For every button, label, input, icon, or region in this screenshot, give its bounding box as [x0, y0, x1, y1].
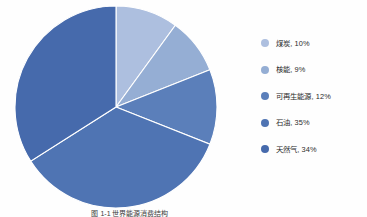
legend-swatch-icon [261, 66, 269, 74]
legend-item-label: 可再生能源, 12% [276, 93, 331, 100]
figure-caption: 图 1-1 世界能源消费结构 [0, 208, 260, 217]
legend-swatch-icon [261, 145, 269, 153]
pie-chart-figure: 煤炭, 10%核能, 9%可再生能源, 12%石油, 35%天然气, 34% 图… [0, 0, 367, 217]
pie-chart-svg [14, 5, 218, 209]
legend-item-label: 煤炭, 10% [276, 40, 310, 47]
legend-item-label: 核能, 9% [276, 66, 305, 73]
legend-item[interactable]: 天然气, 34% [261, 136, 367, 163]
chart-legend: 煤炭, 10%核能, 9%可再生能源, 12%石油, 35%天然气, 34% [261, 30, 367, 163]
legend-item-label: 石油, 35% [276, 119, 310, 126]
legend-item[interactable]: 核能, 9% [261, 57, 367, 84]
legend-item-label: 天然气, 34% [276, 146, 317, 153]
legend-swatch-icon [261, 92, 269, 100]
legend-swatch-icon [261, 39, 269, 47]
legend-swatch-icon [261, 119, 269, 127]
pie-chart-plot-area [14, 5, 218, 209]
legend-item[interactable]: 煤炭, 10% [261, 30, 367, 57]
legend-item[interactable]: 石油, 35% [261, 110, 367, 137]
legend-item[interactable]: 可再生能源, 12% [261, 83, 367, 110]
